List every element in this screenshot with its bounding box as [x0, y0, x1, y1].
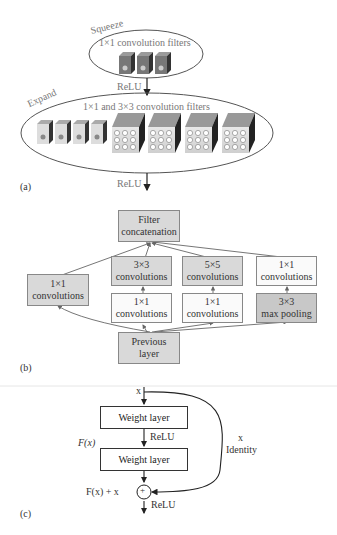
- box-line: 1×1: [187, 296, 239, 308]
- conv-1x1-top-box: 1×1convolutions: [256, 256, 317, 286]
- box-line: convolutions: [116, 271, 168, 283]
- weight-layer-2: Weight layer: [100, 448, 188, 471]
- box-line: convolutions: [261, 271, 313, 283]
- box-line: 1×1: [32, 278, 84, 290]
- box-line: 1×1: [261, 259, 313, 271]
- box-line: Filter: [121, 214, 177, 226]
- identity-x-label: x: [238, 432, 243, 443]
- previous-layer-box: Previouslayer: [118, 332, 180, 364]
- expand-small-filters: [37, 120, 107, 144]
- reduce-1x1-box-b: 1×1convolutions: [182, 293, 243, 323]
- panel-label-c: (c): [20, 508, 31, 519]
- conv-5x5-box: 5×5convolutions: [182, 256, 243, 286]
- box-line: convolutions: [116, 308, 168, 320]
- box-line: max pooling: [261, 308, 311, 320]
- reduce-1x1-box-a: 1×1convolutions: [111, 293, 172, 323]
- fx-label: F(x): [78, 437, 95, 448]
- input-x-label: x: [136, 385, 141, 396]
- box-line: 1×1: [116, 296, 168, 308]
- box-line: 3×3: [261, 296, 311, 308]
- box-line: concatenation: [121, 226, 177, 238]
- box-line: Previous: [132, 336, 167, 348]
- box-line: convolutions: [187, 271, 239, 283]
- fx-text: F(x): [78, 437, 95, 448]
- plus-sign: +: [140, 485, 145, 495]
- expand-large-filters: [112, 113, 255, 153]
- identity-label: Identity: [226, 444, 257, 455]
- conv-3x3-box: 3×3convolutions: [111, 256, 172, 286]
- relu-label-2: ReLU: [117, 178, 141, 189]
- relu-out-label: ReLU: [151, 499, 175, 510]
- max-pooling-box: 3×3max pooling: [256, 293, 317, 323]
- expand-caption: 1×1 and 3×3 convolution filters: [83, 101, 210, 112]
- panel-label-a: (a): [20, 181, 31, 192]
- sum-label: F(x) + x: [86, 486, 119, 497]
- box-line: 3×3: [116, 259, 168, 271]
- squeeze-filters: [119, 52, 171, 74]
- box-line: convolutions: [32, 290, 84, 302]
- panel-label-b: (b): [20, 362, 32, 373]
- branch1-1x1-conv-box: 1×1convolutions: [27, 274, 89, 306]
- box-line: convolutions: [187, 308, 239, 320]
- weight-layer-1: Weight layer: [100, 406, 188, 429]
- box-line: 5×5: [187, 259, 239, 271]
- relu-label-1: ReLU: [117, 81, 141, 92]
- squeeze-caption: 1×1 convolution filters: [99, 37, 191, 48]
- box-line: layer: [132, 348, 167, 360]
- relu-mid-label: ReLU: [150, 431, 174, 442]
- filter-concatenation-box: Filterconcatenation: [118, 210, 180, 242]
